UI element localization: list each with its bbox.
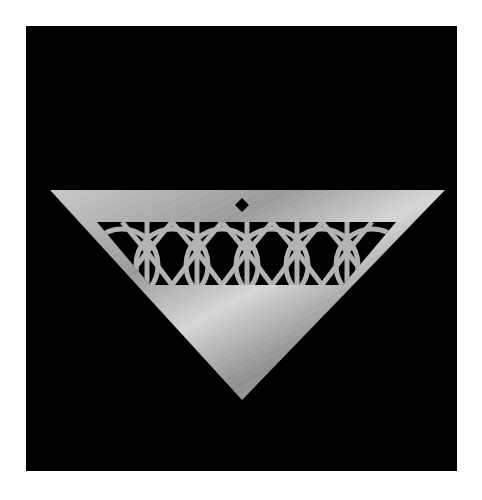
pendant-body [50,190,445,400]
pendant [0,0,482,500]
